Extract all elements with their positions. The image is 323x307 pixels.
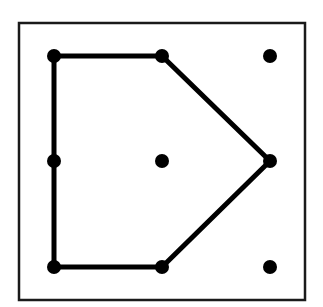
grid-dot-r2c1	[155, 260, 169, 274]
grid-dot-r1c0	[47, 154, 61, 168]
grid-dot-r0c0	[47, 49, 61, 63]
grid-dot-r1c2	[263, 154, 277, 168]
grid-dot-r0c1	[155, 49, 169, 63]
grid-dot-r0c2	[263, 49, 277, 63]
grid-dot-r1c1	[155, 154, 169, 168]
grid-dots	[47, 49, 277, 274]
geoboard-diagram	[0, 0, 323, 307]
grid-dot-r2c0	[47, 260, 61, 274]
grid-dot-r2c2	[263, 260, 277, 274]
